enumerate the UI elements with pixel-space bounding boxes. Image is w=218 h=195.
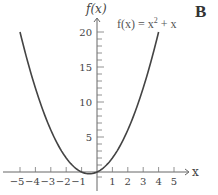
panel-label: B xyxy=(195,2,206,21)
function-chart: −5−4−3−2−1123455101520 f(x) x B f(x) = x… xyxy=(0,0,218,195)
y-tick-label: 10 xyxy=(79,97,92,108)
x-tick-label: −2 xyxy=(56,176,71,187)
function-annotation-prefix: f(x) = x xyxy=(117,17,154,31)
ticks: −5−4−3−2−1123455101520 xyxy=(10,27,178,187)
function-annotation: f(x) = x2 + x xyxy=(117,16,177,31)
function-annotation-suffix: + x xyxy=(158,17,177,31)
x-tick-label: −4 xyxy=(25,176,40,187)
x-tick-label: 5 xyxy=(171,176,177,187)
y-tick-label: 5 xyxy=(86,132,92,143)
x-tick-label: 1 xyxy=(109,176,115,187)
x-tick-label: −3 xyxy=(40,176,55,187)
x-axis-label: x xyxy=(192,165,199,179)
x-tick-label: −1 xyxy=(71,176,86,187)
x-tick-label: 3 xyxy=(140,176,146,187)
y-tick-label: 20 xyxy=(79,27,92,38)
y-axis-label: f(x) xyxy=(85,2,107,16)
x-tick-label: 4 xyxy=(155,176,161,187)
axes xyxy=(3,18,189,191)
x-tick-label: 2 xyxy=(125,176,131,187)
x-tick-label: −5 xyxy=(10,176,25,187)
y-tick-label: 15 xyxy=(79,62,92,73)
